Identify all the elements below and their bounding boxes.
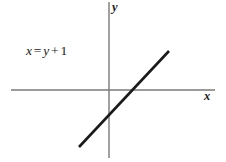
equation-line-plot <box>79 51 169 147</box>
equation-rhs-variable: y <box>43 43 49 58</box>
coordinate-plot-svg <box>0 0 226 162</box>
y-axis-label: y <box>112 1 118 14</box>
math-line-graph-figure: x=y+1 y x <box>0 0 226 162</box>
equation-equals-sign: = <box>32 43 43 58</box>
equation-annotation: x=y+1 <box>26 44 68 58</box>
equation-constant: 1 <box>60 43 67 58</box>
x-axis-label: x <box>204 90 210 103</box>
equation-plus-sign: + <box>50 43 61 58</box>
